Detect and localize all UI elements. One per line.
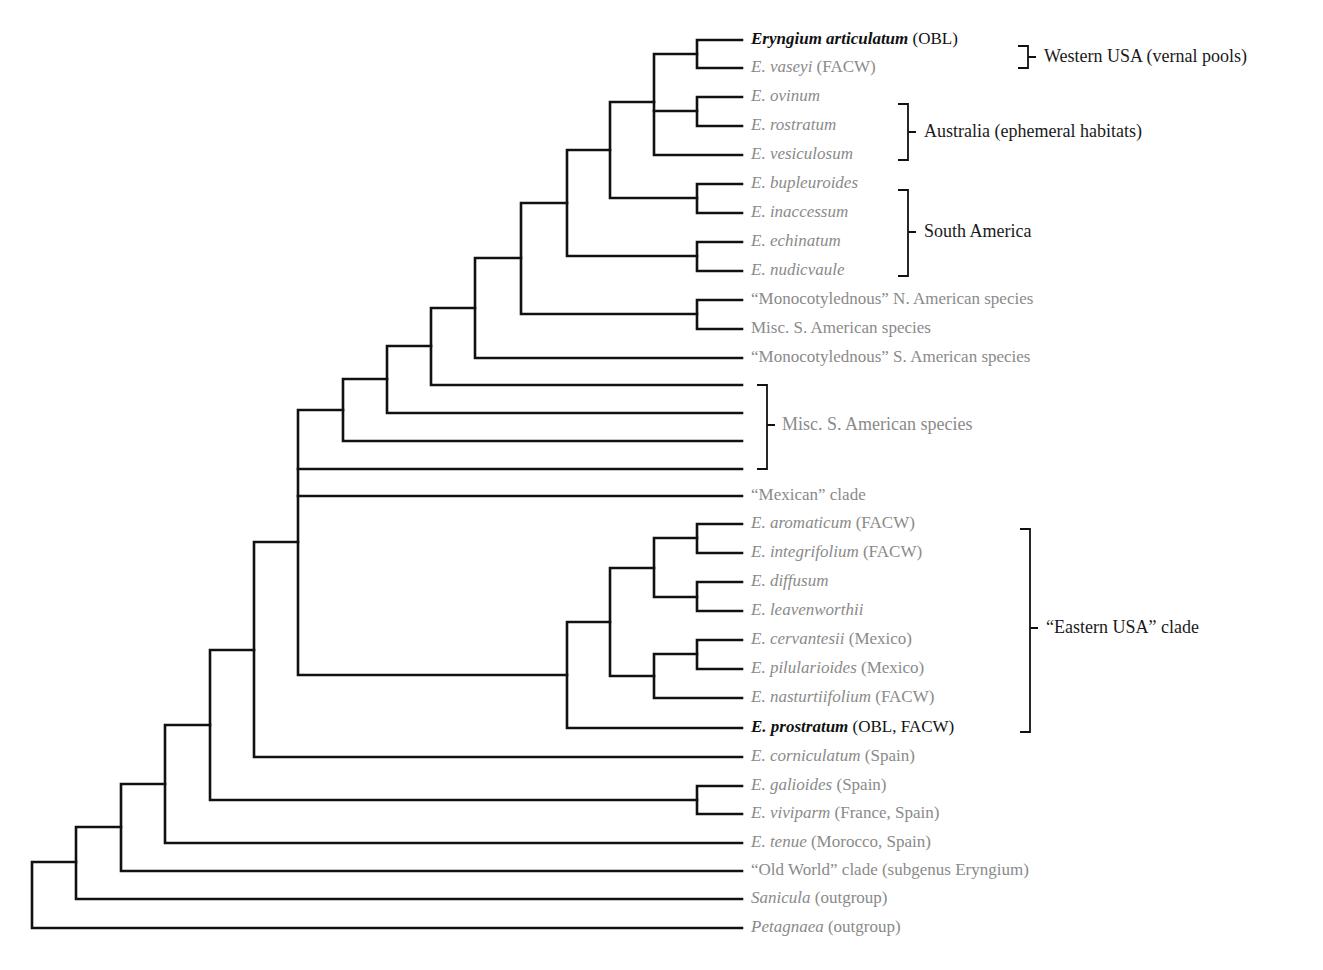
leaf-e-pilularioides: E. pilularioides (Mexico) — [751, 658, 924, 678]
species-name: E. leavenworthii — [751, 600, 863, 619]
leaf-note: “Mexican” clade — [751, 485, 866, 504]
leaf-e-rostratum: E. rostratum — [751, 115, 836, 135]
branch — [210, 650, 697, 800]
bracket-western-usa — [1018, 46, 1036, 68]
leaf-note: (Spain) — [861, 746, 915, 765]
species-name: E. echinatum — [751, 231, 841, 250]
leaf-e-ovinum: E. ovinum — [751, 86, 820, 106]
leaf-note: (outgroup) — [824, 917, 901, 936]
leaf-note: (outgroup) — [811, 888, 888, 907]
branch — [567, 150, 697, 256]
leaf-note: (FACW) — [859, 542, 922, 561]
leaf-e-corniculatum: E. corniculatum (Spain) — [751, 746, 915, 766]
branch — [697, 582, 742, 611]
species-name: Sanicula — [751, 888, 811, 907]
leaf-e-inaccessum: E. inaccessum — [751, 202, 848, 222]
group-label-western-usa: Western USA (vernal pools) — [1044, 46, 1247, 66]
leaf-note: (OBL, FACW) — [848, 717, 954, 736]
leaf-e-vesiculosum: E. vesiculosum — [751, 144, 853, 164]
branch — [697, 786, 742, 814]
species-name: E. prostratum — [751, 717, 848, 736]
leaf-note: (FACW) — [851, 513, 914, 532]
species-name: E. rostratum — [751, 115, 836, 134]
leaf-e-prostratum: E. prostratum (OBL, FACW) — [751, 717, 954, 737]
leaf-e-aromaticum: E. aromaticum (FACW) — [751, 513, 915, 533]
leaf-note: (FACW) — [871, 687, 934, 706]
branch — [654, 538, 697, 597]
branch — [431, 308, 742, 385]
bracket-south-america — [898, 190, 916, 276]
bracket-eastern-usa — [1020, 529, 1038, 732]
species-name: E. nudicvaule — [751, 260, 844, 279]
branch — [697, 97, 742, 126]
species-name: E. corniculatum — [751, 746, 861, 765]
species-name: Petagnaea — [751, 917, 824, 936]
leaf-e-bupleuroides: E. bupleuroides — [751, 173, 858, 193]
leaf-note: (Mexico) — [844, 629, 912, 648]
leaf-e-integrifolium: E. integrifolium (FACW) — [751, 542, 922, 562]
branch — [343, 379, 742, 441]
leaf-e-vaseyi: E. vaseyi (FACW) — [751, 57, 876, 77]
leaf-e-nudicvaule: E. nudicvaule — [751, 260, 844, 280]
group-label-eastern-usa: “Eastern USA” clade — [1046, 617, 1199, 637]
leaf-note: “Old World” clade (subgenus Eryngium) — [751, 860, 1029, 879]
species-name: E. galioides — [751, 775, 832, 794]
species-name: E. aromaticum — [751, 513, 851, 532]
bracket-misc-s-american — [757, 385, 775, 469]
branch — [165, 725, 742, 843]
branch — [121, 784, 742, 871]
leaf-note: (Mexico) — [857, 658, 925, 677]
branch — [475, 258, 742, 358]
species-name: E. tenue — [751, 832, 807, 851]
species-name: E. nasturtiifolium — [751, 687, 871, 706]
leaf-note: “Monocotylednous” S. American species — [751, 347, 1031, 366]
species-name: E. vaseyi — [751, 57, 812, 76]
leaf-mexican-clade: “Mexican” clade — [751, 485, 866, 505]
leaf-e-galioides: E. galioides (Spain) — [751, 775, 887, 795]
leaf-eryngium-articulatum: Eryngium articulatum (OBL) — [751, 29, 958, 49]
leaf-e-cervantesii: E. cervantesii (Mexico) — [751, 629, 912, 649]
leaf-note: (FACW) — [812, 57, 875, 76]
species-name: E. diffusum — [751, 571, 828, 590]
branch — [298, 410, 567, 675]
leaf-old-world-clade: “Old World” clade (subgenus Eryngium) — [751, 860, 1029, 880]
leaf-note: “Monocotylednous” N. American species — [751, 289, 1033, 308]
leaf-note: Misc. S. American species — [751, 318, 931, 337]
leaf-misc-s-american: Misc. S. American species — [751, 318, 931, 338]
leaf-e-nasturtiifolium: E. nasturtiifolium (FACW) — [751, 687, 934, 707]
group-label-australia: Australia (ephemeral habitats) — [924, 121, 1142, 141]
leaf-petagnaea: Petagnaea (outgroup) — [751, 917, 901, 937]
species-name: E. integrifolium — [751, 542, 859, 561]
leaf-e-leavenworthii: E. leavenworthii — [751, 600, 863, 620]
leaf-monocot-n-american: “Monocotylednous” N. American species — [751, 289, 1033, 309]
group-label-misc-s-american: Misc. S. American species — [782, 414, 972, 434]
leaf-e-diffusum: E. diffusum — [751, 571, 828, 591]
branch — [697, 184, 742, 213]
leaf-note: (Spain) — [832, 775, 886, 794]
species-name: E. ovinum — [751, 86, 820, 105]
branch — [697, 242, 742, 271]
leaf-e-echinatum: E. echinatum — [751, 231, 841, 251]
leaf-sanicula: Sanicula (outgroup) — [751, 888, 887, 908]
branch — [697, 300, 742, 329]
branch — [387, 346, 742, 413]
branch — [697, 640, 742, 669]
bracket-australia — [898, 104, 916, 160]
leaf-note: (Morocco, Spain) — [807, 832, 931, 851]
species-name: E. vesiculosum — [751, 144, 853, 163]
phylogenetic-tree — [0, 0, 1323, 970]
species-name: E. pilularioides — [751, 658, 857, 677]
branch — [610, 568, 654, 676]
leaf-note: (OBL) — [908, 29, 958, 48]
branch — [76, 827, 742, 899]
leaf-note: (France, Spain) — [830, 803, 939, 822]
branch — [254, 542, 742, 757]
species-name: E. inaccessum — [751, 202, 848, 221]
leaf-e-viviparm: E. viviparm (France, Spain) — [751, 803, 939, 823]
species-name: E. bupleuroides — [751, 173, 858, 192]
species-name: Eryngium articulatum — [751, 29, 908, 48]
branch — [521, 203, 697, 314]
group-label-south-america: South America — [924, 221, 1031, 241]
species-name: E. cervantesii — [751, 629, 844, 648]
branch — [697, 40, 742, 68]
